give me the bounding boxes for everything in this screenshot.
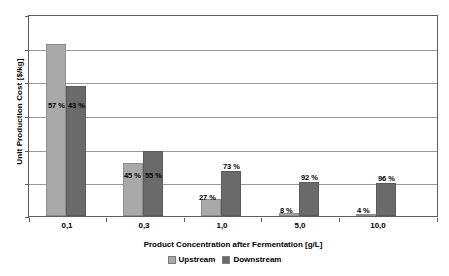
x-axis-label-1-0: 1,0	[192, 221, 252, 230]
bar-group-5-0	[279, 16, 319, 216]
y-axis-tick	[25, 184, 29, 185]
bar-group-0-1	[46, 16, 86, 216]
legend-item-downstream[interactable]: Downstream	[222, 255, 281, 264]
legend-label-downstream: Downstream	[233, 255, 281, 264]
bar-downstream-10-0[interactable]	[376, 183, 396, 216]
y-axis-tick	[25, 16, 29, 17]
bar-downstream-5-0[interactable]	[299, 182, 319, 216]
x-axis-tick	[261, 218, 262, 222]
x-axis-label-0-3: 0,3	[114, 221, 174, 230]
legend-swatch-icon-upstream	[168, 256, 176, 264]
y-axis-tick	[25, 50, 29, 51]
chart-figure: Unit Production Cost [$/kg] 57 % 43 % 45…	[0, 0, 449, 276]
bar-label-upstream-10-0: 4 %	[357, 206, 370, 215]
bar-label-downstream-1-0: 73 %	[223, 162, 240, 171]
bar-label-downstream-0-1: 43 %	[68, 101, 85, 110]
y-axis-tick	[25, 117, 29, 118]
bar-label-upstream-1-0: 27 %	[199, 193, 216, 202]
x-axis-title: Product Concentration after Fermentation…	[28, 240, 438, 249]
bar-downstream-1-0[interactable]	[221, 171, 241, 216]
bar-label-upstream-0-3: 45 %	[124, 171, 141, 180]
plot-area: 57 % 43 % 45 % 55 % 27 % 73 % 8 % 92 % 4…	[28, 15, 438, 217]
bar-group-10-0	[356, 16, 396, 216]
x-axis-tick	[106, 218, 107, 222]
bar-label-upstream-0-1: 57 %	[48, 101, 65, 110]
bar-label-downstream-5-0: 92 %	[301, 173, 318, 182]
bar-group-1-0	[201, 16, 241, 216]
y-axis-tick	[25, 151, 29, 152]
x-axis-tick	[184, 218, 185, 222]
bar-label-downstream-0-3: 55 %	[145, 171, 162, 180]
x-axis-tick	[437, 218, 438, 222]
x-axis-label-0-1: 0,1	[37, 221, 97, 230]
bar-label-downstream-10-0: 96 %	[378, 174, 395, 183]
x-axis-label-10-0: 10,0	[348, 221, 408, 230]
y-axis-tick	[25, 83, 29, 84]
y-axis-title: Unit Production Cost [$/kg]	[15, 27, 24, 197]
bar-downstream-0-3[interactable]	[143, 151, 163, 216]
bar-label-upstream-5-0: 8 %	[280, 206, 293, 215]
legend-label-upstream: Upstream	[179, 255, 216, 264]
x-axis-tick	[29, 218, 30, 222]
bar-group-0-3	[123, 16, 163, 216]
bar-upstream-0-1[interactable]	[46, 44, 66, 216]
chart-legend: Upstream Downstream	[0, 255, 449, 264]
legend-swatch-icon-downstream	[222, 256, 230, 264]
x-axis-label-5-0: 5,0	[270, 221, 330, 230]
legend-item-upstream[interactable]: Upstream	[168, 255, 216, 264]
x-axis-tick	[339, 218, 340, 222]
